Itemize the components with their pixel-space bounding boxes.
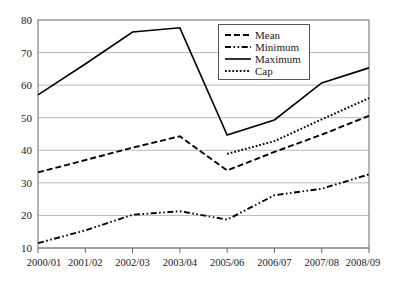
legend-item-label: Maximum (255, 53, 301, 65)
y-axis-tick-label: 80 (21, 14, 33, 26)
plot-area-frame (38, 20, 369, 248)
legend-item-minimum: Minimum (225, 41, 304, 53)
series-line-mean (38, 116, 369, 173)
legend-line-swatch-icon (225, 66, 251, 76)
y-axis-tick-label: 50 (21, 112, 33, 124)
series-line-maximum (38, 28, 369, 135)
chart-canvas: 1020304050607080 2000/012001/022002/0320… (0, 0, 398, 282)
x-axis-tick-label: 2003/04 (163, 257, 198, 268)
x-axis-tick-label: 2006/07 (257, 257, 291, 268)
legend-item-label: Cap (255, 65, 273, 77)
series-group (38, 28, 369, 243)
legend-item-mean: Mean (225, 29, 304, 41)
series-line-minimum (38, 174, 369, 243)
plot-frame-group (38, 20, 369, 248)
x-axis-tick-label: 2000/01 (27, 257, 61, 268)
x-axis-tick-label: 2002/03 (115, 257, 149, 268)
legend-item-cap: Cap (225, 65, 304, 77)
y-axis-tick-label: 70 (21, 47, 33, 59)
series-line-cap (227, 98, 369, 154)
x-tick-labels-group: 2000/012001/022002/032003/042005/062006/… (27, 257, 380, 268)
legend-item-maximum: Maximum (225, 53, 304, 65)
y-axis-tick-label: 10 (21, 242, 33, 254)
legend-line-swatch-icon (225, 42, 251, 52)
y-axis-tick-label: 30 (21, 177, 33, 189)
legend-item-label: Minimum (255, 41, 299, 53)
legend-line-swatch-icon (225, 54, 251, 64)
legend-line-swatch-icon (225, 30, 251, 40)
line-chart: 1020304050607080 2000/012001/022002/0320… (0, 0, 398, 282)
y-axis-tick-label: 20 (21, 209, 33, 221)
y-axis-tick-label: 60 (21, 79, 33, 91)
legend-item-label: Mean (255, 29, 280, 41)
y-tick-labels-group: 1020304050607080 (21, 14, 33, 254)
x-axis-tick-label: 2008/09 (346, 257, 380, 268)
x-axis-tick-label: 2005/06 (210, 257, 244, 268)
x-axis-tick-label: 2001/02 (68, 257, 102, 268)
x-tick-marks-group (38, 248, 369, 253)
chart-legend: MeanMinimumMaximumCap (218, 24, 310, 80)
x-axis-tick-label: 2007/08 (305, 257, 339, 268)
y-axis-tick-label: 40 (21, 144, 33, 156)
